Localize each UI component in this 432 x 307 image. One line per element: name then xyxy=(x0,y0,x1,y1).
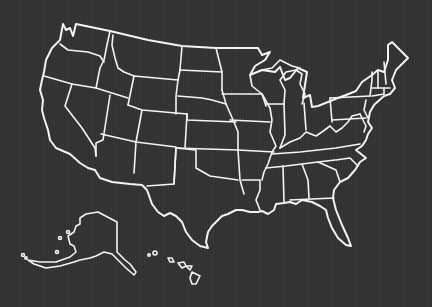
md-de-border xyxy=(360,114,366,132)
nv-ut-border xyxy=(96,95,110,156)
wy-co-border xyxy=(128,105,187,114)
ky-north-border xyxy=(280,126,330,148)
tn-south-border xyxy=(266,160,335,168)
ut-az-border xyxy=(101,134,136,142)
hawaii-island xyxy=(186,266,192,270)
ga-sc-border xyxy=(318,162,340,182)
id-wy-border xyxy=(128,76,134,105)
sd-ne-border xyxy=(178,96,226,104)
ok-tx-border xyxy=(176,148,238,180)
mn-wi-border xyxy=(250,75,266,106)
or-ca-border xyxy=(44,76,128,98)
va-wv-border xyxy=(330,114,360,132)
ne-ks-border xyxy=(187,114,236,122)
ca-nv-border xyxy=(65,84,96,156)
id-mt-border xyxy=(112,35,134,76)
ga-fl-border xyxy=(290,198,334,200)
nm-tx-border xyxy=(147,148,176,186)
us-map: United States map outline xyxy=(0,0,432,307)
alaska-island xyxy=(25,257,27,259)
il-in-border xyxy=(280,104,285,148)
co-ks-border xyxy=(185,114,187,148)
pa-ny-border xyxy=(330,96,370,98)
alaska-island xyxy=(56,251,59,254)
hawaii-island xyxy=(178,262,186,268)
nj-border xyxy=(364,100,368,118)
hawaii-island xyxy=(153,251,157,255)
alaska-island xyxy=(67,231,70,234)
oh-pa-border xyxy=(330,98,332,122)
ms-al-border xyxy=(283,166,284,202)
hawaii-island xyxy=(148,254,150,256)
us-map-svg xyxy=(0,0,432,307)
ar-la-border xyxy=(242,180,260,210)
hawaii-island xyxy=(168,258,174,262)
nc-sc-border xyxy=(336,158,358,166)
ct-ri-border xyxy=(372,88,384,96)
alaska-island xyxy=(59,237,62,240)
alaska-outline xyxy=(28,212,136,275)
in-oh-border xyxy=(304,103,306,130)
mt-wy-border xyxy=(134,76,178,80)
nd-mn-border xyxy=(216,48,222,90)
al-ga-border xyxy=(302,164,309,198)
nd-sd-border xyxy=(180,70,222,72)
wa-or-border xyxy=(60,44,104,62)
alaska-island xyxy=(22,254,25,257)
contiguous-us-outline xyxy=(40,24,408,248)
hawaii-island xyxy=(190,272,200,284)
pa-south-border xyxy=(332,118,366,120)
az-nm-border xyxy=(136,142,176,184)
mo-ar-border xyxy=(238,150,274,152)
